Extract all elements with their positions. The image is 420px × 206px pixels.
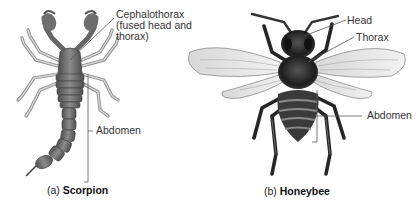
label-thorax: Thorax — [356, 32, 389, 43]
caption-scorpion-name: Scorpion — [63, 184, 109, 196]
arthropod-body-plan-figure: Cephalothorax (fused head and thorax) Ab… — [0, 0, 420, 206]
label-head: Head — [347, 15, 372, 26]
caption-honeybee: (b) Honeybee — [264, 185, 330, 197]
caption-scorpion: (a) Scorpion — [47, 184, 108, 196]
bee-abdomen — [277, 90, 318, 142]
label-scorpion-abdomen: Abdomen — [96, 125, 141, 136]
label-cephalothorax-line3: thorax) — [116, 31, 192, 42]
label-cephalothorax: Cephalothorax (fused head and thorax) — [116, 9, 192, 42]
scorpion-tail — [26, 108, 76, 176]
caption-honeybee-prefix: (b) — [264, 185, 277, 197]
label-bee-abdomen: Abdomen — [367, 110, 412, 121]
scorpion-illustration — [18, 11, 118, 182]
caption-scorpion-prefix: (a) — [47, 184, 60, 196]
caption-honeybee-name: Honeybee — [280, 185, 330, 197]
scorpion-pincers — [39, 11, 100, 50]
scorpion-abdomen-segments — [56, 74, 84, 108]
